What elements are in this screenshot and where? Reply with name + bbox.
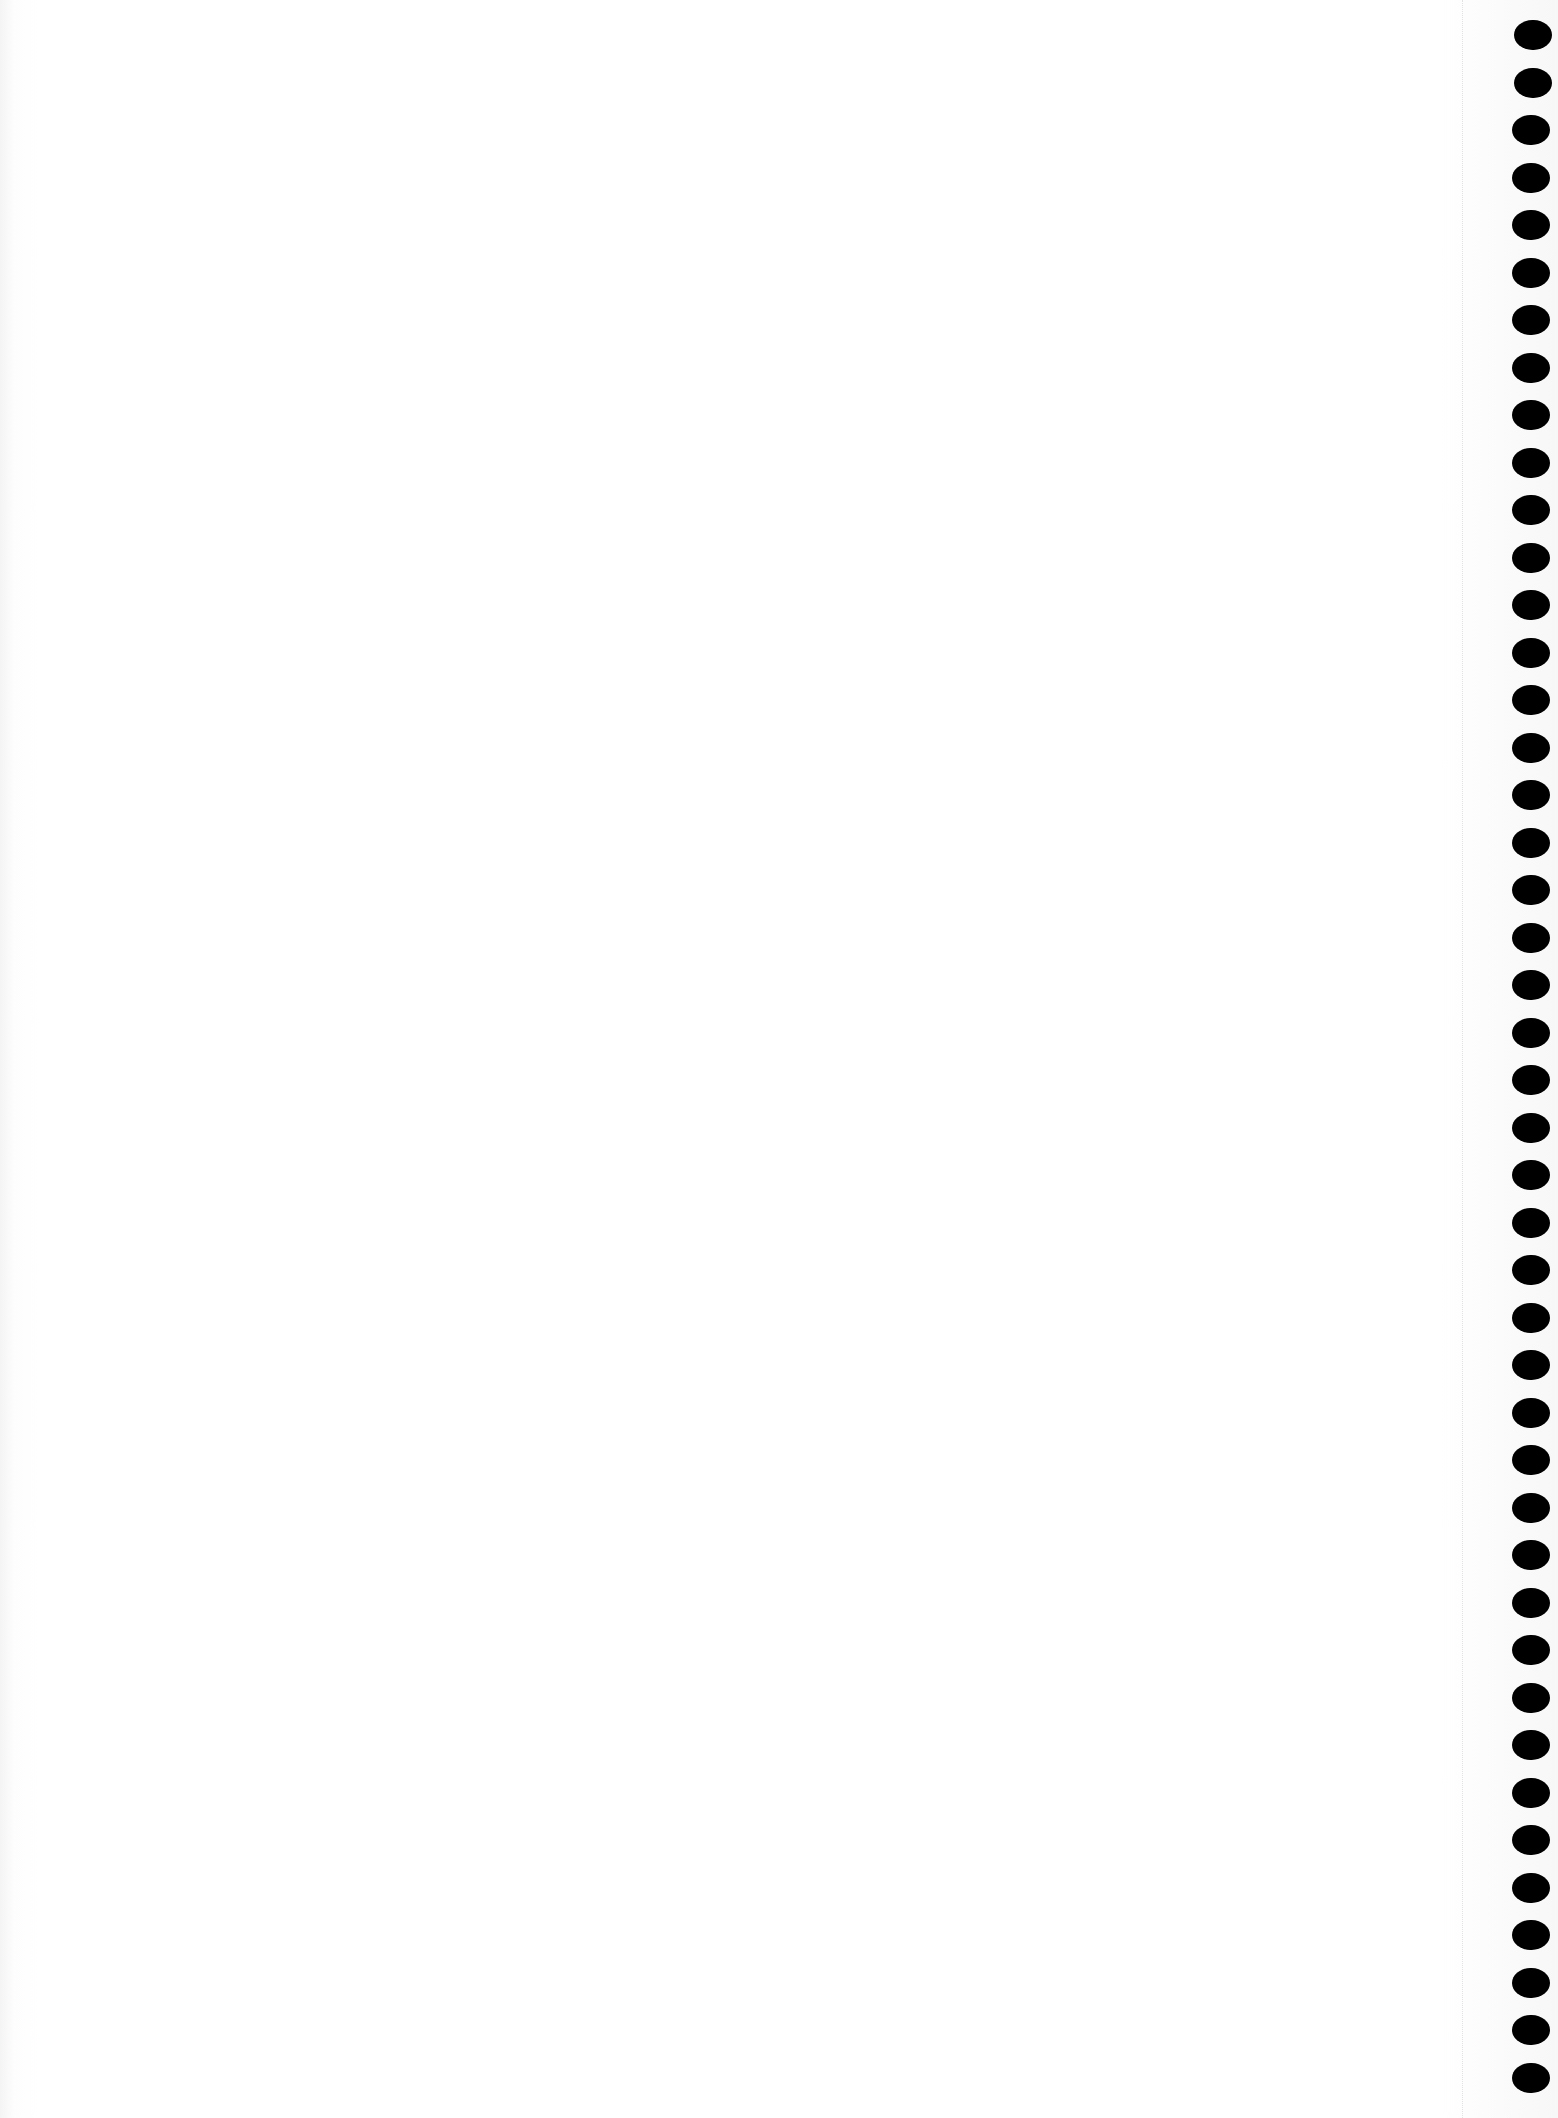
binding-hole (1512, 400, 1550, 430)
perforation-line (1462, 0, 1463, 2118)
binding-hole (1512, 1968, 1550, 1998)
binding-hole (1512, 875, 1550, 905)
binding-hole (1512, 1540, 1550, 1570)
binding-hole (1512, 1350, 1550, 1380)
binding-hole (1514, 20, 1552, 50)
binding-hole (1512, 1303, 1550, 1333)
binding-hole (1512, 923, 1550, 953)
binding-hole (1512, 543, 1550, 573)
binding-hole (1512, 1778, 1550, 1808)
binding-hole (1512, 495, 1550, 525)
binding-hole (1512, 780, 1550, 810)
binding-hole (1512, 1065, 1550, 1095)
binding-hole (1512, 2015, 1550, 2045)
binding-hole (1512, 685, 1550, 715)
binding-hole (1512, 733, 1550, 763)
binding-hole (1512, 1113, 1550, 1143)
binding-hole (1512, 1160, 1550, 1190)
binding-hole (1512, 1730, 1550, 1760)
binding-hole (1512, 638, 1550, 668)
notebook-page (0, 0, 1558, 2118)
binding-hole (1512, 970, 1550, 1000)
binding-hole (1514, 68, 1552, 98)
binding-hole (1512, 1588, 1550, 1618)
binding-hole (1512, 448, 1550, 478)
binding-hole (1512, 2063, 1550, 2093)
binding-holes (1508, 0, 1558, 2118)
binding-hole (1512, 258, 1550, 288)
binding-hole (1512, 1920, 1550, 1950)
binding-hole (1512, 1018, 1550, 1048)
binding-hole (1512, 1208, 1550, 1238)
binding-hole (1512, 210, 1550, 240)
binding-hole (1512, 1635, 1550, 1665)
binding-hole (1512, 305, 1550, 335)
binding-hole (1512, 163, 1550, 193)
binding-hole (1512, 1683, 1550, 1713)
binding-hole (1512, 1255, 1550, 1285)
binding-hole (1512, 1445, 1550, 1475)
binding-hole (1512, 353, 1550, 383)
binding-hole (1512, 1398, 1550, 1428)
binding-hole (1512, 115, 1550, 145)
binding-hole (1512, 1825, 1550, 1855)
binding-hole (1512, 828, 1550, 858)
binding-hole (1512, 1873, 1550, 1903)
binding-hole (1512, 590, 1550, 620)
binding-hole (1512, 1493, 1550, 1523)
